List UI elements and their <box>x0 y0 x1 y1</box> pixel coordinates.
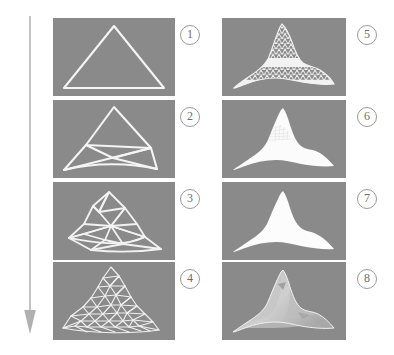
panel-8-label: 8 <box>357 269 377 289</box>
panel-7 <box>222 182 346 260</box>
panel-5-graphic <box>222 18 346 96</box>
panel-6-graphic <box>222 100 346 178</box>
panel-3 <box>53 182 175 260</box>
panel-6-label: 6 <box>357 107 377 127</box>
figure-root: 1 2 <box>0 0 394 355</box>
panel-8-graphic <box>222 262 346 340</box>
panel-7-label: 7 <box>357 189 377 209</box>
panel-6 <box>222 100 346 178</box>
panel-1-graphic <box>53 18 175 96</box>
panel-2-graphic <box>53 100 175 178</box>
panel-3-graphic <box>53 182 175 260</box>
panel-2 <box>53 100 175 178</box>
panel-8 <box>222 262 346 340</box>
panel-5 <box>222 18 346 96</box>
panel-1 <box>53 18 175 96</box>
panel-4 <box>53 262 175 340</box>
panel-7-graphic <box>222 182 346 260</box>
panel-4-label: 4 <box>180 269 200 289</box>
panel-2-label: 2 <box>180 107 200 127</box>
panel-3-label: 3 <box>180 189 200 209</box>
panel-5-label: 5 <box>357 25 377 45</box>
panel-4-graphic <box>53 262 175 340</box>
panel-1-label: 1 <box>180 25 200 45</box>
progression-arrow <box>20 14 42 336</box>
